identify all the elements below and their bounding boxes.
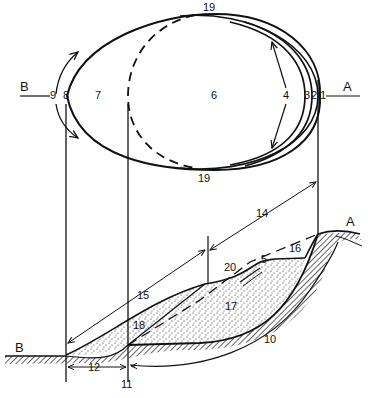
label-7: 7 [95, 90, 101, 101]
label-b-section: B [15, 341, 24, 354]
label-9: 9 [50, 90, 56, 101]
label-17: 17 [225, 301, 237, 312]
label-5: 5 [261, 254, 267, 265]
label-2: 2 [311, 90, 317, 101]
label-1: 1 [320, 90, 326, 101]
label-14: 14 [256, 208, 268, 219]
label-11: 11 [121, 379, 132, 390]
label-4: 4 [283, 90, 289, 101]
landslide-diagram [0, 0, 368, 398]
label-a-section: A [346, 215, 355, 228]
arrow-4-down [272, 104, 286, 148]
label-18: 18 [133, 320, 145, 331]
arrow-9-up [56, 52, 78, 94]
label-a-plan: A [343, 80, 352, 93]
arrow-9-down [56, 104, 78, 138]
dashed-rupture-toe [128, 15, 195, 168]
cross-section [5, 182, 362, 367]
label-20: 20 [224, 262, 236, 273]
label-6: 6 [211, 90, 217, 101]
label-b-plan: B [20, 80, 29, 93]
label-12: 12 [88, 362, 100, 373]
label-8: 8 [63, 90, 69, 101]
label-15: 15 [137, 290, 149, 301]
label-16: 16 [289, 243, 301, 254]
label-19-bottom: 19 [198, 173, 210, 184]
label-10: 10 [264, 334, 276, 345]
inner-scarp-arc-1 [230, 22, 305, 165]
label-3: 3 [304, 90, 310, 101]
label-19-top: 19 [203, 2, 215, 13]
